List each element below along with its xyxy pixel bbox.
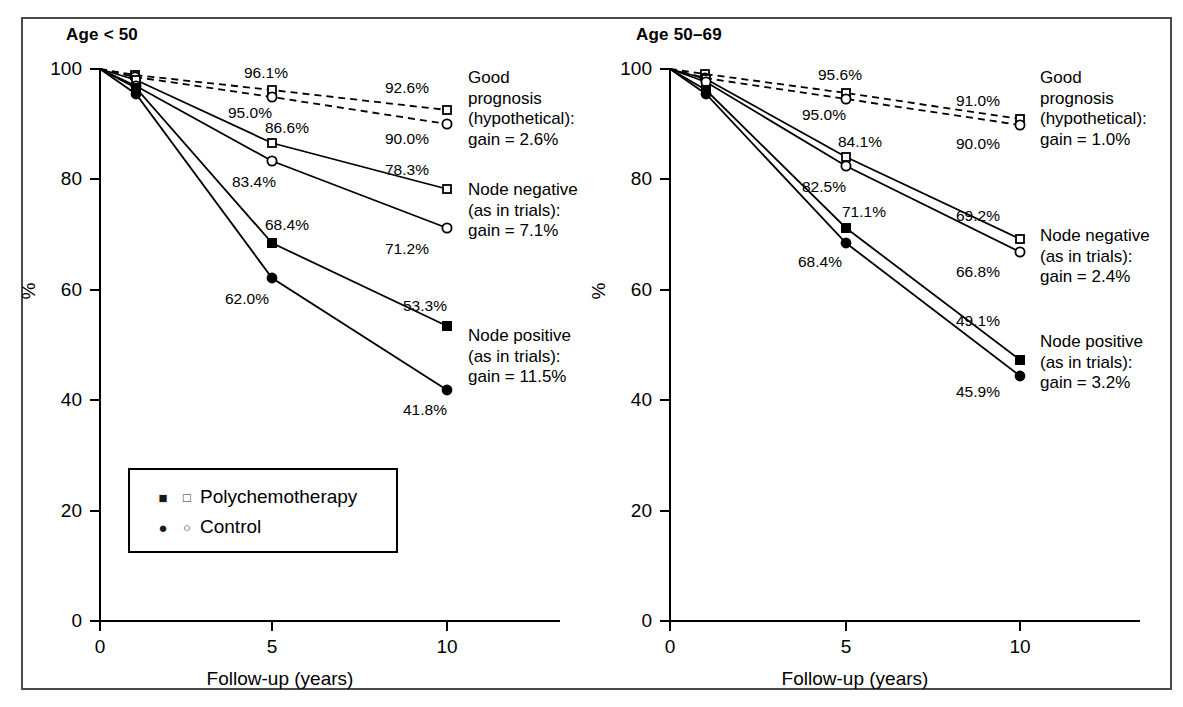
note-line: (as in trials): [468,347,571,368]
point-label-left-86-6: 86.6% [265,119,309,137]
ytick-100-right: 100 [590,58,652,80]
point-label-right-91-0: 91.0% [956,92,1000,110]
legend-label-polychemotherapy: Polychemotherapy [200,486,357,508]
xtick-5-right: 5 [816,636,876,658]
point-label-right-82-5: 82.5% [802,178,846,196]
note-node-positive-right: Node positive (as in trials): gain = 3.2… [1040,332,1143,394]
note-line: prognosis [468,89,575,110]
note-line: Node positive [1040,332,1143,353]
point-label-right-68-4: 68.4% [798,253,842,271]
panel-age-under-50: Age < 50 [0,0,600,707]
ytick-80-right: 80 [590,168,652,190]
panel-age-50-69: Age 50–69 [570,0,1183,707]
ytick-0-left: 0 [20,610,82,632]
note-line: Good [468,68,575,89]
xtick-10-left: 10 [417,636,477,658]
ytick-40-left: 40 [20,389,82,411]
point-label-left-71-2: 71.2% [385,240,429,258]
x-axis-label-left: Follow-up (years) [180,668,380,690]
legend-row-polychemotherapy: ■ □ Polychemotherapy [152,486,357,508]
note-line: (as in trials): [1040,247,1150,268]
legend-row-control: ● ○ Control [152,516,261,538]
note-node-positive-left: Node positive (as in trials): gain = 11.… [468,326,571,388]
note-node-negative-left: Node negative (as in trials): gain = 7.1… [468,180,578,242]
xtick-0-left: 0 [70,636,130,658]
ytick-20-right: 20 [590,500,652,522]
note-line: Node negative [1040,226,1150,247]
note-good-prognosis-right: Good prognosis (hypothetical): gain = 1.… [1040,68,1147,150]
xtick-10-right: 10 [990,636,1050,658]
note-line: gain = 11.5% [468,367,571,388]
point-label-right-95-6: 95.6% [818,66,862,84]
point-label-right-95-0: 95.0% [802,106,846,124]
note-line: gain = 2.4% [1040,267,1150,288]
point-label-left-96-1: 96.1% [244,64,288,82]
point-label-right-90-0: 90.0% [956,135,1000,153]
point-label-right-49-1: 49.1% [956,312,1000,330]
point-label-right-45-9: 45.9% [956,383,1000,401]
note-line: Node negative [468,180,578,201]
note-line: (hypothetical): [1040,109,1147,130]
point-label-left-62-0: 62.0% [225,290,269,308]
open-circle-icon: ○ [174,520,200,535]
point-label-left-83-4: 83.4% [232,173,276,191]
point-label-right-69-2: 69.2% [956,207,1000,225]
note-line: gain = 3.2% [1040,373,1143,394]
point-label-left-53-3: 53.3% [403,297,447,315]
xtick-0-right: 0 [640,636,700,658]
open-square-icon: □ [174,490,200,505]
xtick-5-left: 5 [242,636,302,658]
y-axis-label-right: % [588,278,610,304]
note-line: (hypothetical): [468,109,575,130]
ytick-80-left: 80 [20,168,82,190]
filled-square-icon: ■ [152,489,174,506]
point-label-left-78-3: 78.3% [385,161,429,179]
note-node-negative-right: Node negative (as in trials): gain = 2.4… [1040,226,1150,288]
note-good-prognosis-left: Good prognosis (hypothetical): gain = 2.… [468,68,575,150]
ytick-0-right: 0 [590,610,652,632]
note-line: (as in trials): [1040,353,1143,374]
note-line: Node positive [468,326,571,347]
point-label-left-41-8: 41.8% [403,401,447,419]
point-label-right-66-8: 66.8% [956,263,1000,281]
legend: ■ □ Polychemotherapy ● ○ Control [128,468,398,553]
series-node-positive-poly-left [100,69,452,331]
point-label-right-84-1: 84.1% [838,133,882,151]
note-line: gain = 2.6% [468,130,575,151]
x-axis-label-right: Follow-up (years) [755,668,955,690]
figure-root: Age < 50 [0,0,1183,707]
filled-circle-icon: ● [152,519,174,536]
note-line: gain = 1.0% [1040,130,1147,151]
ytick-20-left: 20 [20,500,82,522]
point-label-right-71-1: 71.1% [842,203,886,221]
point-label-left-68-4: 68.4% [265,216,309,234]
point-label-left-90-0: 90.0% [385,130,429,148]
ytick-100-left: 100 [20,58,82,80]
note-line: gain = 7.1% [468,221,578,242]
note-line: prognosis [1040,89,1147,110]
legend-label-control: Control [200,516,261,538]
note-line: Good [1040,68,1147,89]
note-line: (as in trials): [468,201,578,222]
ytick-40-right: 40 [590,389,652,411]
point-label-left-92-6: 92.6% [385,79,429,97]
y-axis-label-left: % [18,278,40,304]
